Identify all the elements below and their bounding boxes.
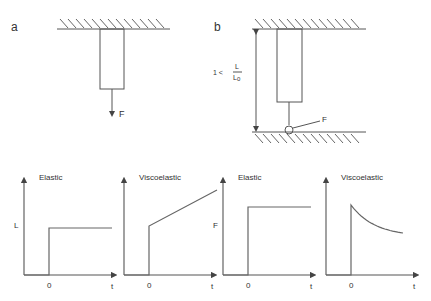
hatch-stroke xyxy=(84,19,92,28)
hatch-stroke xyxy=(68,19,76,28)
hatch-stroke xyxy=(351,19,359,28)
ceiling-b xyxy=(252,19,366,29)
hatch-stroke xyxy=(303,134,311,143)
ratio-subscript: 0 xyxy=(237,76,241,82)
graph-2: Viscoelastic0t xyxy=(124,173,217,291)
hatch-stroke xyxy=(319,134,327,143)
hatch-stroke xyxy=(351,134,359,143)
hatch-stroke xyxy=(156,19,164,28)
hatch-stroke xyxy=(335,19,343,28)
hatch-stroke xyxy=(279,134,287,143)
y-axis-label: L xyxy=(14,221,19,230)
hatch-stroke xyxy=(303,19,311,28)
hatch-stroke xyxy=(287,19,295,28)
graph-4: Viscoelastic0t xyxy=(326,173,416,291)
hatch-stroke xyxy=(327,19,335,28)
graph-title: Elastic xyxy=(238,173,262,182)
hatch-stroke xyxy=(271,134,279,143)
force-label-a: F xyxy=(119,109,125,119)
panel-a-label: a xyxy=(11,20,18,34)
hatch-stroke xyxy=(279,19,287,28)
graphs: Elastic0tLViscoelastic0tElastic0tFViscoe… xyxy=(14,173,416,291)
ratio-numerator: L xyxy=(235,63,239,70)
hatch-stroke xyxy=(263,134,271,143)
hatch-stroke xyxy=(311,19,319,28)
hatch-stroke xyxy=(255,134,263,143)
graph-title: Elastic xyxy=(39,173,63,182)
graph-title: Viscoelastic xyxy=(139,173,181,182)
hatch-stroke xyxy=(148,19,156,28)
ratio-prefix: 1 < xyxy=(213,69,223,76)
hatch-stroke xyxy=(263,19,271,28)
response-curve xyxy=(24,228,112,275)
specimen-a xyxy=(100,29,124,89)
hatch-stroke xyxy=(92,19,100,28)
hatch-stroke xyxy=(319,19,327,28)
hatch-stroke xyxy=(311,134,319,143)
x-axis-label: t xyxy=(211,282,214,291)
hatch-stroke xyxy=(76,19,84,28)
x-axis-label: t xyxy=(111,282,114,291)
hatch-stroke xyxy=(343,19,351,28)
force-leader-b xyxy=(293,121,320,128)
hatch-stroke xyxy=(124,19,132,28)
hatch-stroke xyxy=(295,134,303,143)
force-label-b: F xyxy=(322,115,327,124)
response-curve xyxy=(124,190,217,275)
hatch-stroke xyxy=(108,19,116,28)
diagram-canvas: a F b F 1 < L L 0 Elastic0tLViscoelastic… xyxy=(0,0,431,301)
hatch-stroke xyxy=(335,134,343,143)
hatch-stroke xyxy=(132,19,140,28)
response-curve xyxy=(223,207,311,275)
panel-a: a F xyxy=(11,19,170,119)
x-axis-label: t xyxy=(413,282,416,291)
hatch-stroke xyxy=(100,19,108,28)
origin-label: 0 xyxy=(147,281,152,290)
specimen-b xyxy=(277,29,302,102)
panel-b: b F 1 < L L 0 xyxy=(213,19,366,143)
hatch-stroke xyxy=(140,19,148,28)
hatch-stroke xyxy=(255,19,263,28)
graph-title: Viscoelastic xyxy=(341,173,383,182)
hatch-stroke xyxy=(343,134,351,143)
origin-label: 0 xyxy=(246,281,251,290)
origin-label: 0 xyxy=(349,281,354,290)
hatch-stroke xyxy=(327,134,335,143)
graph-3: Elastic0tF xyxy=(213,173,313,291)
hatch-stroke xyxy=(295,19,303,28)
hatch-stroke xyxy=(116,19,124,28)
hatch-stroke xyxy=(287,134,295,143)
graph-1: Elastic0tL xyxy=(14,173,114,291)
ceiling-a xyxy=(57,19,170,29)
origin-label: 0 xyxy=(47,281,52,290)
panel-b-label: b xyxy=(214,20,221,34)
floor-b xyxy=(252,132,366,143)
hatch-stroke xyxy=(271,19,279,28)
hatch-stroke xyxy=(60,19,68,28)
y-axis-label: F xyxy=(213,221,218,230)
force-sensor-b xyxy=(285,126,293,134)
response-curve xyxy=(326,205,403,275)
x-axis-label: t xyxy=(310,282,313,291)
